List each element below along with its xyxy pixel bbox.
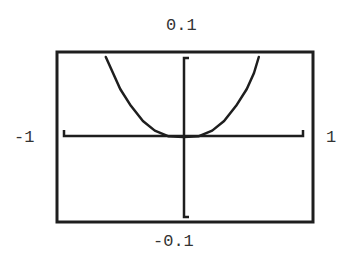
plot-canvas [0,0,357,263]
plot-curve [106,57,259,137]
